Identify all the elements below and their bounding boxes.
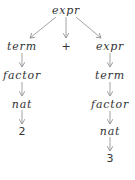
node-factor-right: factor [91, 99, 129, 110]
node-number-2: 2 [19, 126, 26, 137]
edge-arrow-root-to-term1 [30, 17, 56, 38]
node-factor-left: factor [3, 70, 41, 81]
node-expr-root: expr [52, 5, 80, 16]
node-expr-right: expr [96, 41, 124, 52]
node-term-right: term [95, 70, 125, 81]
parse-tree-diagram: expr term + expr factor term nat factor … [0, 0, 135, 180]
node-nat-right: nat [100, 126, 120, 137]
node-number-3: 3 [107, 153, 114, 164]
node-term-left: term [7, 41, 37, 52]
edge-arrow-root-to-expr2 [76, 17, 101, 38]
tree-edges [0, 0, 135, 180]
node-plus-operator: + [61, 41, 70, 52]
node-nat-left: nat [12, 99, 32, 110]
